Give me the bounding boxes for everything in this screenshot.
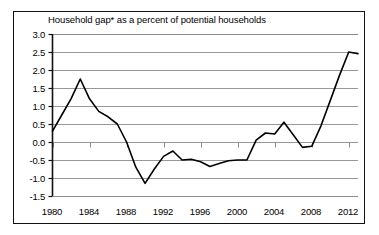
chart-plot-area [0,0,379,235]
gridlines-group [53,35,359,197]
chart-figure: Household gap* as a percent of potential… [0,0,379,235]
data-series-line [53,52,359,183]
